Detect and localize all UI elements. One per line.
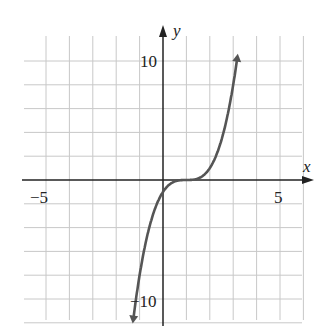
x-axis-arrow-icon: [302, 176, 314, 184]
x-axis-label: x: [302, 157, 311, 176]
x-tick-label-5: 5: [274, 188, 283, 207]
y-tick-label-10: 10: [140, 52, 157, 71]
x-tick-label-neg5: −5: [30, 188, 48, 207]
axes: [22, 25, 314, 326]
y-axis-label: y: [171, 21, 181, 40]
function-curve: [129, 54, 241, 324]
y-axis-arrow-icon: [159, 25, 167, 37]
curve-arrow-icon: [129, 315, 138, 324]
curve-path: [134, 62, 237, 316]
cubic-function-graph: −5 5 10 −10 x y: [0, 0, 324, 331]
y-tick-label-neg10: −10: [130, 292, 157, 311]
